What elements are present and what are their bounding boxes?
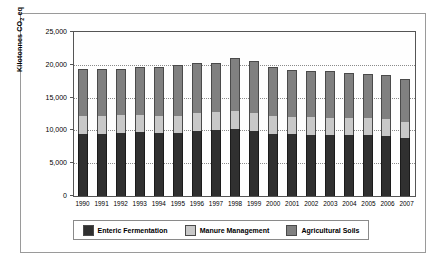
stacked-bar[interactable] [230, 58, 240, 196]
bar-segment-soils[interactable] [135, 67, 145, 114]
bar-segment-soils[interactable] [154, 67, 164, 116]
bar-segment-manure[interactable] [78, 116, 88, 134]
x-axis-tick-label: 2004 [340, 200, 359, 214]
stacked-bar[interactable] [78, 69, 88, 196]
bar-column[interactable] [339, 32, 358, 196]
bar-segment-soils[interactable] [211, 63, 221, 112]
bar-segment-soils[interactable] [400, 79, 410, 122]
x-axis-tick-label: 1997 [206, 200, 225, 214]
bar-segment-manure[interactable] [135, 115, 145, 133]
stacked-bar[interactable] [344, 73, 354, 196]
bar-segment-enteric[interactable] [381, 136, 391, 196]
bar-column[interactable] [226, 32, 245, 196]
bar-segment-enteric[interactable] [78, 134, 88, 196]
bar-segment-enteric[interactable] [363, 135, 373, 196]
bar-column[interactable] [207, 32, 226, 196]
bar-column[interactable] [131, 32, 150, 196]
bar-segment-manure[interactable] [268, 116, 278, 133]
bar-column[interactable] [74, 32, 93, 196]
stacked-bar[interactable] [192, 63, 202, 196]
bar-segment-enteric[interactable] [400, 138, 410, 196]
bar-segment-soils[interactable] [249, 61, 259, 113]
bar-segment-soils[interactable] [344, 73, 354, 118]
bar-segment-soils[interactable] [363, 74, 373, 118]
bar-segment-soils[interactable] [325, 71, 335, 117]
bar-segment-manure[interactable] [249, 113, 259, 132]
bar-column[interactable] [377, 32, 396, 196]
x-axis-tick-label: 1990 [73, 200, 92, 214]
bar-column[interactable] [396, 32, 415, 196]
bar-segment-enteric[interactable] [249, 131, 259, 196]
legend-item[interactable]: Manure Management [185, 225, 270, 236]
bar-column[interactable] [358, 32, 377, 196]
bar-series-container [74, 32, 415, 196]
bar-segment-enteric[interactable] [230, 129, 240, 196]
bar-column[interactable] [301, 32, 320, 196]
bar-segment-soils[interactable] [230, 58, 240, 111]
bar-segment-manure[interactable] [400, 122, 410, 138]
bar-column[interactable] [320, 32, 339, 196]
bar-column[interactable] [282, 32, 301, 196]
bar-segment-enteric[interactable] [135, 132, 145, 196]
bar-segment-soils[interactable] [268, 67, 278, 116]
stacked-bar[interactable] [211, 63, 221, 196]
bar-segment-manure[interactable] [325, 118, 335, 135]
stacked-bar[interactable] [306, 71, 316, 196]
bar-segment-soils[interactable] [287, 70, 297, 117]
bar-segment-manure[interactable] [230, 111, 240, 129]
bar-segment-enteric[interactable] [116, 133, 126, 196]
bar-segment-soils[interactable] [192, 63, 202, 113]
bar-segment-enteric[interactable] [325, 135, 335, 196]
bar-segment-soils[interactable] [173, 65, 183, 116]
bar-column[interactable] [188, 32, 207, 196]
bar-segment-enteric[interactable] [173, 133, 183, 196]
bar-segment-enteric[interactable] [211, 130, 221, 196]
bar-segment-manure[interactable] [381, 119, 391, 136]
bar-column[interactable] [112, 32, 131, 196]
bar-segment-soils[interactable] [306, 71, 316, 117]
stacked-bar[interactable] [381, 75, 391, 196]
bar-segment-manure[interactable] [344, 118, 354, 135]
stacked-bar[interactable] [135, 67, 145, 196]
bar-column[interactable] [169, 32, 188, 196]
bar-column[interactable] [244, 32, 263, 196]
bar-segment-soils[interactable] [78, 69, 88, 116]
stacked-bar[interactable] [97, 69, 107, 196]
bar-column[interactable] [93, 32, 112, 196]
stacked-bar[interactable] [287, 70, 297, 196]
bar-segment-enteric[interactable] [268, 134, 278, 196]
bar-segment-manure[interactable] [287, 117, 297, 134]
bar-column[interactable] [150, 32, 169, 196]
bar-segment-manure[interactable] [116, 115, 126, 133]
bar-segment-soils[interactable] [381, 75, 391, 119]
bar-segment-enteric[interactable] [154, 133, 164, 196]
legend-item[interactable]: Agricultural Soils [286, 225, 359, 236]
stacked-bar[interactable] [268, 67, 278, 196]
stacked-bar[interactable] [173, 65, 183, 196]
stacked-bar[interactable] [400, 79, 410, 196]
bar-segment-enteric[interactable] [344, 135, 354, 196]
bar-segment-enteric[interactable] [97, 134, 107, 196]
stacked-bar[interactable] [116, 69, 126, 196]
bar-segment-manure[interactable] [306, 117, 316, 134]
bar-segment-enteric[interactable] [306, 135, 316, 196]
stacked-bar[interactable] [249, 61, 259, 196]
y-axis-tick-label: 20,000 [21, 60, 67, 67]
bar-segment-enteric[interactable] [192, 131, 202, 196]
bar-column[interactable] [263, 32, 282, 196]
bar-segment-manure[interactable] [211, 112, 221, 130]
stacked-bar[interactable] [325, 71, 335, 196]
bar-segment-soils[interactable] [116, 69, 126, 115]
bar-segment-manure[interactable] [97, 116, 107, 134]
bar-segment-manure[interactable] [154, 116, 164, 133]
bar-segment-soils[interactable] [97, 69, 107, 116]
stacked-bar[interactable] [363, 74, 373, 196]
legend-item[interactable]: Enteric Fermentation [83, 225, 168, 236]
y-axis-tick-label: 0 [21, 192, 67, 199]
bar-segment-enteric[interactable] [287, 134, 297, 196]
bar-segment-manure[interactable] [363, 118, 373, 136]
x-axis-tick-label: 1991 [92, 200, 111, 214]
bar-segment-manure[interactable] [173, 116, 183, 133]
stacked-bar[interactable] [154, 67, 164, 196]
bar-segment-manure[interactable] [192, 113, 202, 131]
